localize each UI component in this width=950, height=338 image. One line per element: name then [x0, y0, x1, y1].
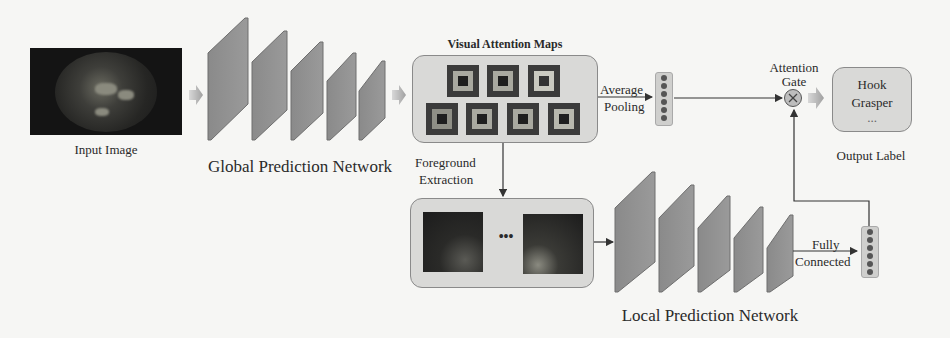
- attention-map: [507, 103, 539, 135]
- local-network-label: Local Prediction Network: [610, 306, 810, 325]
- average-pooling-label-1: Average: [600, 82, 643, 97]
- fat-arrow-icon: [189, 85, 203, 105]
- attention-map: [548, 103, 580, 135]
- attention-map: [466, 103, 498, 135]
- local-patch: [523, 214, 583, 274]
- fc-feature-vector: [861, 226, 879, 278]
- global-network-layers: [208, 18, 385, 140]
- attention-map: [426, 103, 458, 135]
- foreground-label-1: Foreground: [415, 155, 476, 170]
- output-ellipsis: ...: [833, 110, 911, 125]
- output-label-caption: Output Label: [826, 148, 916, 163]
- multiply-gate-icon: [784, 89, 802, 107]
- output-label-box: Hook Grasper ...: [832, 67, 912, 132]
- attention-gate-label-2: Gate: [764, 74, 824, 89]
- global-network-label: Global Prediction Network: [200, 157, 400, 176]
- input-image: [30, 48, 182, 135]
- attention-maps-box: [412, 55, 598, 143]
- pooled-feature-vector: [655, 72, 673, 126]
- local-patch: [423, 212, 483, 272]
- patch-ellipsis: •••: [491, 229, 521, 244]
- local-network-layers: [615, 172, 793, 292]
- output-class-1: Hook: [833, 77, 911, 92]
- input-image-label: Input Image: [30, 142, 182, 157]
- foreground-label-2: Extraction: [419, 172, 473, 187]
- lesion-spot: [95, 108, 109, 116]
- attention-maps-title: Visual Attention Maps: [412, 37, 598, 52]
- fat-arrow-icon: [808, 87, 824, 109]
- lesion-spot: [95, 83, 117, 95]
- output-class-2: Grasper: [833, 95, 911, 110]
- fully-connected-label-2: Connected: [795, 254, 851, 269]
- lesion-spot: [118, 90, 134, 100]
- attention-map: [528, 65, 560, 97]
- average-pooling-label-2: Pooling: [604, 99, 644, 114]
- local-patches-box: •••: [410, 198, 594, 288]
- fully-connected-label-1: Fully: [812, 237, 839, 252]
- attention-gate-label-1: Attention: [764, 60, 824, 75]
- attention-map: [447, 65, 479, 97]
- attention-map: [487, 65, 519, 97]
- fat-arrow-icon: [392, 85, 406, 105]
